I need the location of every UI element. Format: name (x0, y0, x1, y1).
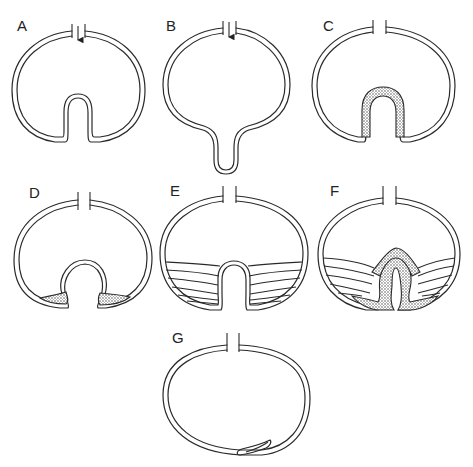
panel-label-b: B (166, 17, 176, 34)
stippled-wedge-left (40, 292, 68, 304)
sac-outer-wall (318, 198, 383, 310)
panel-g: G (163, 329, 310, 455)
sac-inner-wall (168, 33, 285, 170)
stippled-fold (362, 87, 404, 137)
striation-lines (166, 262, 302, 304)
sac-inner-wall (323, 203, 383, 305)
panel-label-d: D (29, 184, 40, 201)
panel-a: A (12, 17, 145, 142)
sac-outer-wall (163, 345, 310, 455)
panel-label-a: A (17, 17, 27, 34)
sac-outer-wall (14, 200, 152, 308)
sac-outer-wall (312, 27, 455, 142)
panel-e: E (160, 182, 308, 310)
stippled-fold (352, 256, 438, 310)
flattened-fold (237, 440, 271, 455)
sac-inner-wall (19, 205, 147, 303)
panel-label-c: C (323, 17, 334, 34)
sac-outer-wall (12, 31, 145, 142)
panel-label-g: G (172, 329, 184, 346)
sac-inner-wall (17, 36, 140, 137)
sac-inner-wall (168, 350, 305, 450)
panel-f: F (318, 182, 460, 310)
diagram-figure: A B C D E (0, 0, 473, 467)
panel-c: C (312, 17, 455, 142)
panel-label-f: F (330, 182, 339, 199)
panel-d: D (14, 184, 152, 308)
panel-b: B (163, 17, 290, 174)
panel-label-e: E (170, 182, 180, 199)
